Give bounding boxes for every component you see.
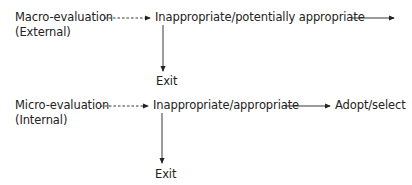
- external-label: (External): [15, 26, 71, 39]
- decision-label-top: Inappropriate/potentially appropriate: [155, 11, 365, 24]
- decision-label-bottom: Inappropriate/appropriate: [153, 99, 299, 112]
- exit-label-bottom: Exit: [155, 168, 176, 181]
- macro-evaluation-label: Macro-evaluation: [15, 11, 113, 24]
- micro-evaluation-label: Micro-evaluation: [15, 99, 109, 112]
- exit-label-top: Exit: [156, 75, 177, 88]
- adopt-select-label: Adopt/select: [335, 99, 406, 112]
- internal-label: (Internal): [15, 114, 67, 127]
